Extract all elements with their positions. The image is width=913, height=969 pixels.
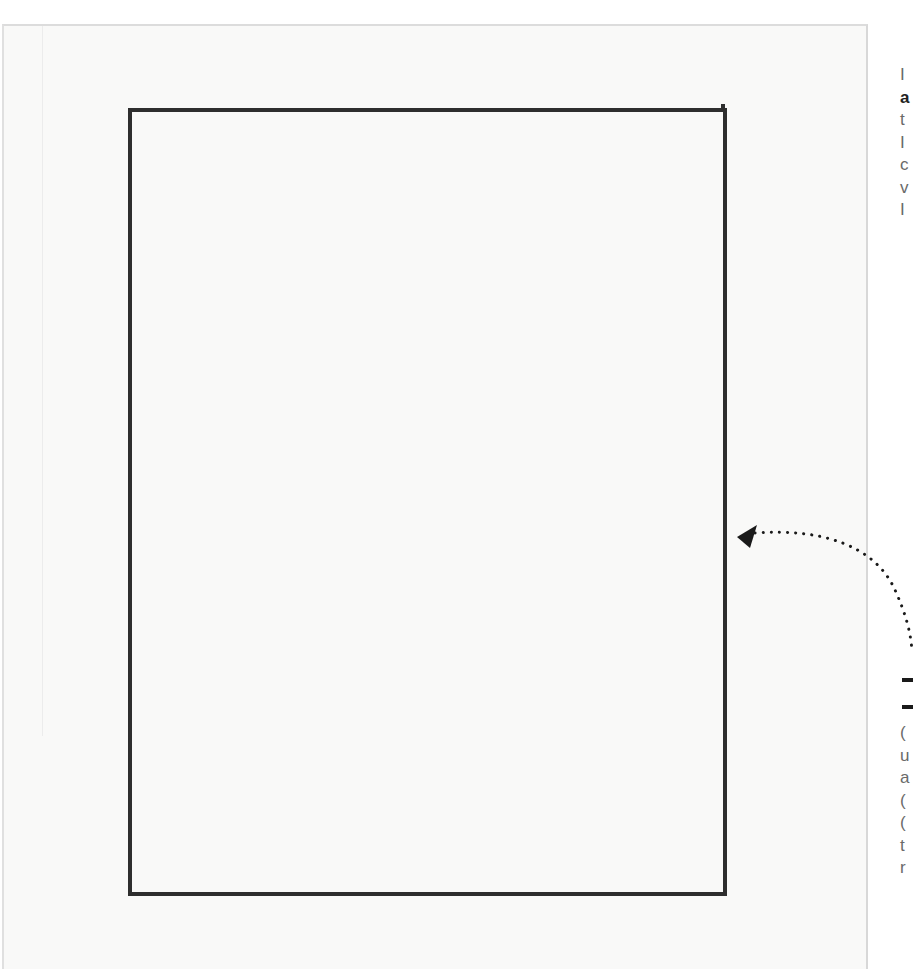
text-fragment: I	[900, 64, 913, 87]
text-fragment: v	[900, 177, 913, 200]
text-fragment: r	[900, 857, 913, 880]
text-fragment: a	[900, 87, 913, 110]
text-fragment: c	[900, 154, 913, 177]
text-fragment: I	[900, 199, 913, 222]
dotted-arrow-icon	[0, 0, 913, 969]
text-fragment: t	[900, 835, 913, 858]
text-fragment: I	[900, 132, 913, 155]
right-text-column-top: I a t I c v I	[900, 64, 913, 222]
heading-rule	[902, 705, 913, 709]
text-fragment: (	[900, 722, 913, 745]
heading-rule	[902, 678, 913, 682]
text-fragment: t	[900, 109, 913, 132]
text-fragment: a	[900, 767, 913, 790]
right-text-column-bottom: ( u a ( ( t r	[900, 722, 913, 880]
text-fragment: u	[900, 745, 913, 768]
text-fragment: (	[900, 812, 913, 835]
text-fragment: (	[900, 790, 913, 813]
